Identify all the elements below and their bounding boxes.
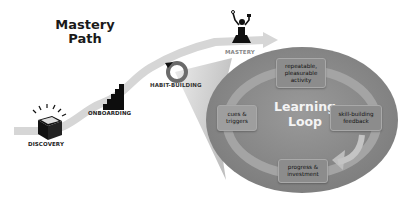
step-text: skill-building — [338, 111, 373, 118]
mastery-path-diagram: Mastery Path DISCOVERY ONBOARDING HABIT-… — [0, 0, 413, 203]
stage-label-onboarding: ONBOARDING — [88, 110, 131, 116]
step-text: progress & — [287, 164, 319, 171]
step-text: cues & — [226, 111, 248, 118]
loop-step-skill-building-feedback: skill-building feedback — [330, 105, 382, 131]
loop-step-cues-triggers: cues & triggers — [217, 105, 257, 131]
step-text: repeatable, — [285, 63, 318, 70]
stage-label-mastery: MASTERY — [225, 49, 255, 55]
step-text: investment — [287, 171, 319, 178]
stage-label-discovery: DISCOVERY — [28, 141, 64, 147]
page-title: Mastery Path — [40, 18, 130, 46]
path-arrowhead — [263, 32, 278, 48]
title-line-1: Mastery — [40, 18, 130, 32]
loop-step-progress-investment: progress & investment — [278, 159, 328, 183]
title-line-2: Path — [40, 32, 130, 46]
step-text: activity — [285, 77, 318, 84]
stage-label-habit-building: HABIT-BUILDING — [150, 82, 202, 88]
step-text: feedback — [338, 118, 373, 125]
stairs-icon — [103, 84, 124, 110]
loop-step-repeatable-activity: repeatable, pleasurable activity — [276, 58, 326, 88]
step-text: pleasurable — [285, 70, 318, 77]
step-text: triggers — [226, 118, 248, 125]
